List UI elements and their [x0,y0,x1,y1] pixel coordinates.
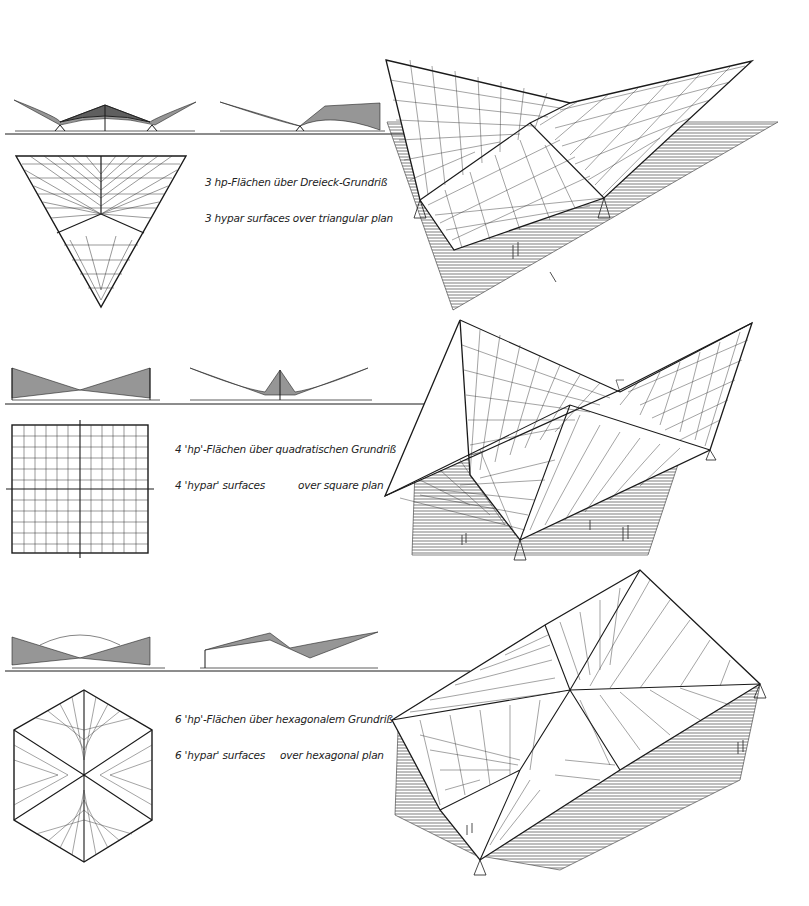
perspective-triangular [386,60,778,310]
caption-hexagonal-de: 6 'hp'-Flächen über hexagonalem Grundriß [175,713,393,725]
caption-square: 4 'hp'-Flächen über quadratischen Grundr… [175,419,396,503]
caption-square-en-a: 4 'hypar' surfaces [175,479,298,491]
caption-square-de: 4 'hp'-Flächen über quadratischen Grundr… [175,443,396,455]
caption-triangular-de: 3 hp-Flächen über Dreieck-Grundriß [205,176,393,188]
perspective-square [385,320,752,560]
caption-hexagonal-en-a: 6 'hypar' surfaces [175,749,280,761]
caption-square-en-b: over square plan [298,479,384,491]
elevation-square [5,368,460,404]
caption-hexagonal-en-b: over hexagonal plan [280,749,384,761]
caption-hexagonal: 6 'hp'-Flächen über hexagonalem Grundriß… [175,689,393,773]
hypar-plate-drawing [0,0,809,906]
plan-hexagon [14,690,152,862]
elevation-hexagonal [5,632,470,671]
perspective-hexagonal [392,570,766,875]
plan-square [6,420,154,558]
plan-triangle [16,156,186,307]
caption-triangular: 3 hp-Flächen über Dreieck-Grundriß 3 hyp… [205,152,393,236]
caption-triangular-en: 3 hypar surfaces over triangular plan [205,212,393,224]
